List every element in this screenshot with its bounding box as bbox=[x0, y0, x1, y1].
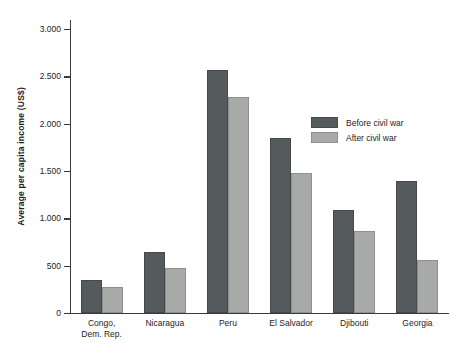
x-axis-label: Djibouti bbox=[323, 318, 386, 339]
x-axis-label-line: El Salvador bbox=[260, 318, 323, 329]
x-axis-label-line: Georgia bbox=[386, 318, 449, 329]
bar-after[interactable] bbox=[291, 173, 312, 313]
x-axis-label-line: Nicaragua bbox=[133, 318, 196, 329]
y-axis-tick-label: 2.500 bbox=[40, 71, 61, 81]
x-axis-label-line: Peru bbox=[196, 318, 259, 329]
x-axis-label-line: Dem. Rep. bbox=[70, 329, 133, 340]
bar-after[interactable] bbox=[102, 287, 123, 313]
chart-legend: Before civil war After civil war bbox=[311, 117, 404, 147]
y-axis-tick-label: 1.000 bbox=[40, 213, 61, 223]
bar-before[interactable] bbox=[333, 210, 354, 313]
plot-area: 3.0002.5002.0001.5001.0005000 bbox=[70, 29, 449, 313]
bar-after[interactable] bbox=[354, 231, 375, 313]
bar-group bbox=[260, 29, 323, 313]
bar-before[interactable] bbox=[81, 280, 102, 313]
bar-before[interactable] bbox=[144, 252, 165, 313]
bar-after[interactable] bbox=[165, 268, 186, 313]
x-axis-label: Congo,Dem. Rep. bbox=[70, 318, 133, 339]
legend-label-before: Before civil war bbox=[346, 118, 404, 128]
y-axis-title: Average per capita income (US$) bbox=[10, 0, 32, 313]
bar-before[interactable] bbox=[270, 138, 291, 313]
bar-groups bbox=[70, 29, 449, 313]
bar-group bbox=[133, 29, 196, 313]
legend-label-after: After civil war bbox=[346, 133, 397, 143]
y-axis-title-text: Average per capita income (US$) bbox=[16, 87, 26, 226]
bar-after[interactable] bbox=[228, 97, 249, 313]
bar-after[interactable] bbox=[417, 260, 438, 313]
bar-group bbox=[386, 29, 449, 313]
y-axis-tick-label: 3.000 bbox=[40, 24, 61, 34]
legend-item-before: Before civil war bbox=[311, 117, 404, 128]
x-axis-label: Nicaragua bbox=[133, 318, 196, 339]
bar-group bbox=[196, 29, 259, 313]
bar-before[interactable] bbox=[396, 181, 417, 313]
legend-swatch-after-icon bbox=[311, 132, 338, 143]
x-axis-label: Peru bbox=[196, 318, 259, 339]
y-axis-tick-label: 500 bbox=[47, 261, 61, 271]
bar-chart: Average per capita income (US$) 3.0002.5… bbox=[0, 0, 461, 351]
y-axis-tick-label: 0 bbox=[56, 308, 61, 318]
bar-group bbox=[70, 29, 133, 313]
x-axis-label-line: Congo, bbox=[70, 318, 133, 329]
x-axis-labels: Congo,Dem. Rep.NicaraguaPeruEl SalvadorD… bbox=[70, 318, 449, 339]
legend-swatch-before-icon bbox=[311, 117, 338, 128]
y-axis-tick-label: 1.500 bbox=[40, 166, 61, 176]
y-axis-tick-label: 2.000 bbox=[40, 119, 61, 129]
y-axis-tick-mark bbox=[64, 313, 70, 314]
bar-before[interactable] bbox=[207, 70, 228, 313]
x-axis-label: Georgia bbox=[386, 318, 449, 339]
x-axis-label-line: Djibouti bbox=[323, 318, 386, 329]
bar-group bbox=[323, 29, 386, 313]
legend-item-after: After civil war bbox=[311, 132, 404, 143]
x-axis-label: El Salvador bbox=[260, 318, 323, 339]
